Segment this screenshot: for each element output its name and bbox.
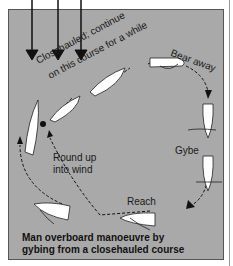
label-reach: Reach [127,196,156,207]
boats [25,58,213,226]
diagram-caption: Man overboard manoeuvre by gybing from a… [22,232,184,256]
label-round-up-2: into wind [53,164,92,175]
label-round-up-1: Round up [53,152,96,163]
label-gybe: Gybe [175,145,199,156]
man-overboard-marker [40,121,46,127]
caption-line-1: Man overboard manoeuvre by [22,232,184,244]
caption-line-2: gybing from a closehauled course [22,244,184,256]
